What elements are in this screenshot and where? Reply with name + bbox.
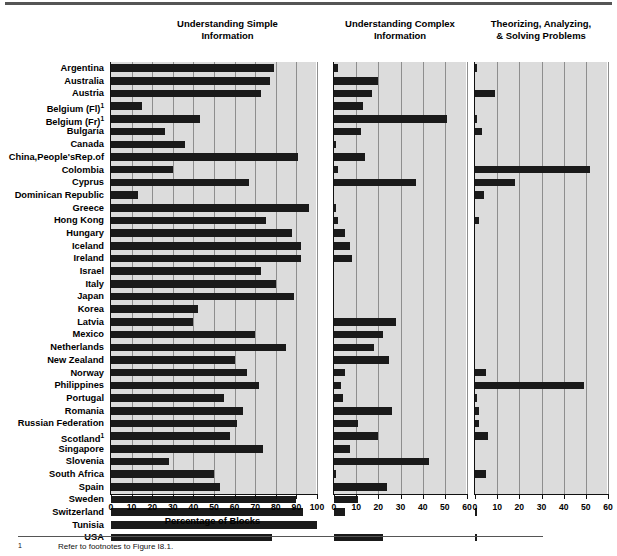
axis-tick: [497, 494, 498, 499]
panel-title-complex: Understanding Complex Information: [330, 18, 470, 41]
category-label: South Africa: [0, 468, 108, 481]
chart-row: [475, 125, 607, 138]
chart-row: [111, 100, 316, 113]
bar: [111, 242, 301, 250]
axis-tick: [296, 494, 297, 499]
bar: [334, 331, 383, 339]
axis-tick: [255, 494, 256, 499]
panel-titles: Understanding Simple Information Underst…: [0, 18, 617, 58]
chart-row: [334, 176, 466, 189]
category-label: Sweden: [0, 493, 108, 506]
panel-title-theorizing: Theorizing, Analyzing, & Solving Problem…: [470, 18, 612, 41]
chart-row: [334, 202, 466, 215]
bar: [334, 179, 416, 187]
chart-row: [334, 189, 466, 202]
bar: [475, 369, 486, 377]
axis-tick: [519, 494, 520, 499]
axis-tick: [475, 494, 476, 499]
panel-3-bars: [475, 62, 607, 494]
bar: [475, 115, 477, 123]
bar: [334, 420, 358, 428]
chart-row: [334, 290, 466, 303]
axis-tick-label: 40: [189, 502, 199, 512]
chart-row: [111, 214, 316, 227]
axis-tick-label: 10: [127, 502, 137, 512]
bar: [111, 331, 255, 339]
panel-title-simple-line1: Understanding Simple: [177, 18, 278, 29]
axis-tick: [564, 494, 565, 499]
footnote-divider-rule: [18, 536, 543, 537]
category-label: Argentina: [0, 62, 108, 75]
chart-row: [111, 278, 316, 291]
axis-tick-label: 60: [462, 502, 472, 512]
chart-row: [334, 328, 466, 341]
axis-tick-label: 40: [559, 502, 569, 512]
bar: [475, 90, 495, 98]
bar: [334, 318, 396, 326]
panel-title-simple: Understanding Simple Information: [135, 18, 320, 41]
axis-tick-label: 0: [109, 502, 114, 512]
category-label: Australia: [0, 75, 108, 88]
axis-tick: [111, 494, 112, 499]
chart-row: [111, 176, 316, 189]
category-label: Greece: [0, 202, 108, 215]
chart-row: [111, 202, 316, 215]
chart-row: [334, 417, 466, 430]
chart-row: [111, 468, 316, 481]
chart-row: [334, 265, 466, 278]
chart-row: [111, 341, 316, 354]
chart-row: [111, 303, 316, 316]
chart-row: [111, 252, 316, 265]
chart-row: [475, 164, 607, 177]
bar: [111, 407, 243, 415]
chart-row: [475, 405, 607, 418]
bar: [111, 128, 165, 136]
chart-row: [334, 392, 466, 405]
bar: [475, 191, 484, 199]
category-label: Netherlands: [0, 341, 108, 354]
axis-tick: [334, 494, 335, 499]
chart-row: [475, 214, 607, 227]
category-label: Iceland: [0, 240, 108, 253]
bar: [475, 64, 477, 72]
chart-row: [475, 138, 607, 151]
bar: [334, 90, 372, 98]
chart-row: [334, 100, 466, 113]
axis-tick-label: 50: [581, 502, 591, 512]
bar: [475, 166, 590, 174]
axis-tick-label: 30: [168, 502, 178, 512]
chart-row: [111, 481, 316, 494]
category-label: Korea: [0, 303, 108, 316]
chart-row: [334, 151, 466, 164]
category-label: Latvia: [0, 316, 108, 329]
bar: [334, 242, 350, 250]
axis-tick-label: 20: [374, 502, 384, 512]
chart-row: [111, 354, 316, 367]
bar: [334, 483, 387, 491]
bar: [111, 305, 198, 313]
category-label: Belgium (Fr)1: [0, 113, 108, 126]
axis-tick-label: 50: [440, 502, 450, 512]
chart-row: [475, 62, 607, 75]
bar: [111, 432, 230, 440]
bar: [111, 534, 272, 542]
axis-tick: [214, 494, 215, 499]
bar: [111, 166, 173, 174]
panel-title-simple-line2: Information: [201, 30, 253, 41]
bar: [475, 534, 477, 542]
axis-tick: [173, 494, 174, 499]
bar: [111, 141, 185, 149]
axis-tick: [401, 494, 402, 499]
chart-row: [111, 113, 316, 126]
chart-row: [475, 303, 607, 316]
chart-row: [111, 405, 316, 418]
chart-row: [475, 481, 607, 494]
chart-row: [334, 240, 466, 253]
chart-row: [111, 75, 316, 88]
chart-row: [475, 354, 607, 367]
bar: [475, 432, 488, 440]
bar: [334, 344, 374, 352]
bar: [475, 394, 477, 402]
chart-row: [334, 367, 466, 380]
panel-title-theorizing-line1: Theorizing, Analyzing,: [491, 18, 591, 29]
